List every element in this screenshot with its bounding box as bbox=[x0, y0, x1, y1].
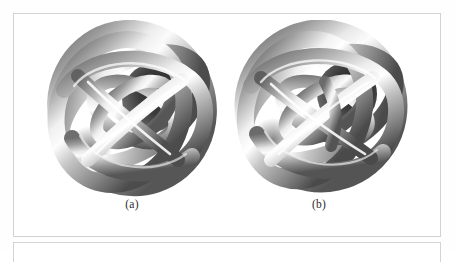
knot-render-b bbox=[221, 20, 417, 198]
panel-label-b: (b) bbox=[221, 198, 417, 210]
figure-frame: (a) bbox=[13, 13, 441, 237]
knot-graphic-b bbox=[221, 20, 417, 198]
following-figure-frame bbox=[13, 242, 441, 262]
knot-graphic-a bbox=[34, 20, 230, 198]
figure-panel-b: (b) bbox=[221, 20, 417, 232]
figure-panel-a: (a) bbox=[34, 20, 230, 232]
knot-render-a bbox=[34, 20, 230, 198]
panel-label-a: (a) bbox=[34, 198, 230, 210]
